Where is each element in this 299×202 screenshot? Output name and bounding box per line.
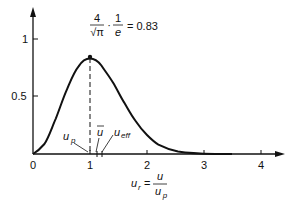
svg-text:u: u	[157, 170, 163, 182]
maxwell-distribution-chart: 1 0.5 0 1 2 3 4 4 √π · 1 e = 0.83 u p u …	[0, 0, 299, 202]
u-eff-label: u	[114, 126, 120, 138]
svg-text:1: 1	[115, 12, 121, 24]
svg-text:p: p	[162, 191, 168, 200]
y-tick-label-0-5: 0.5	[11, 90, 26, 102]
peak-dot	[88, 55, 92, 59]
svg-text:=: =	[144, 177, 150, 189]
velocity-markers: u p u u eff	[63, 126, 131, 152]
peak-formula: 4 √π · 1 e = 0.83	[90, 12, 158, 38]
x-tick-label-0: 0	[30, 159, 36, 171]
u-mean-label: u	[97, 126, 103, 138]
x-tick-label-2: 2	[144, 159, 150, 171]
svg-text:eff: eff	[121, 131, 131, 140]
x-axis-arrow-icon	[275, 151, 285, 157]
y-axis-arrow-icon	[30, 7, 36, 17]
x-axis-label: u r = u u p	[131, 170, 168, 200]
y-ticks	[33, 39, 38, 96]
svg-text:u: u	[131, 177, 137, 189]
svg-text:·: ·	[107, 19, 111, 31]
svg-text:u: u	[155, 185, 161, 197]
x-tick-label-3: 3	[201, 159, 207, 171]
svg-text:4: 4	[94, 12, 100, 24]
svg-text:= 0.83: = 0.83	[127, 20, 158, 32]
svg-text:r: r	[138, 183, 141, 192]
up-label: u	[63, 130, 69, 142]
svg-text:√π: √π	[90, 26, 104, 38]
x-tick-label-4: 4	[258, 159, 264, 171]
y-tick-label-1: 1	[22, 33, 28, 45]
x-tick-label-1: 1	[87, 159, 93, 171]
svg-text:e: e	[115, 26, 121, 38]
